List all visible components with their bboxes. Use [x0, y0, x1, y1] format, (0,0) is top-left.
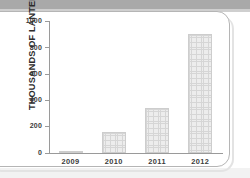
y-tick-mark	[45, 100, 50, 101]
y-tick-label-0: 0	[38, 149, 42, 156]
bar-chart: THOUSANDS OF LANTERNS 1000 800 600 400 2…	[0, 0, 250, 178]
y-tick-label-200: 200	[30, 122, 42, 129]
x-tick-label-2010: 2010	[94, 157, 134, 166]
y-tick-label-1000: 1000	[26, 17, 42, 24]
x-tick-label-2009: 2009	[51, 157, 91, 166]
bar-2011	[145, 108, 169, 153]
bar-2010	[102, 132, 126, 153]
y-tick-mark	[45, 74, 50, 75]
y-tick-mark	[45, 47, 50, 48]
bar-2009	[59, 151, 83, 153]
y-tick-label-400: 400	[30, 96, 42, 103]
bar-2012	[188, 34, 212, 152]
y-tick-mark	[45, 21, 50, 22]
y-axis-line	[49, 21, 50, 154]
y-tick-label-800: 800	[30, 44, 42, 51]
x-tick-label-2011: 2011	[137, 157, 177, 166]
y-tick-label-600: 600	[30, 70, 42, 77]
y-tick-mark	[45, 126, 50, 127]
scanned-page: THOUSANDS OF LANTERNS 1000 800 600 400 2…	[0, 0, 250, 178]
x-tick-label-2012: 2012	[180, 157, 220, 166]
y-tick-mark	[45, 153, 50, 154]
